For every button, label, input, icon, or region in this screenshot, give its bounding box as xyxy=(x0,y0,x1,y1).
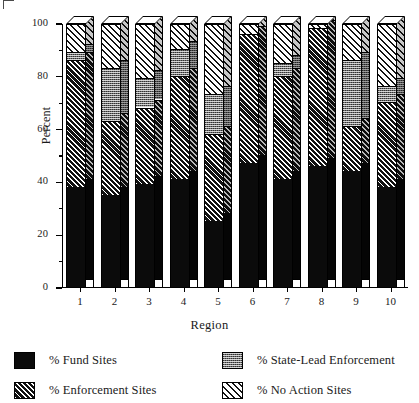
legend-label-enforcement-sites: % Enforcement Sites xyxy=(49,383,156,398)
x-tick-label: 5 xyxy=(206,295,230,307)
bar-segment-fund-sites xyxy=(136,184,154,287)
legend-label-no-action-sites: % No Action Sites xyxy=(257,383,351,398)
bar-segment-fund-sites xyxy=(274,179,292,287)
bar-front-face xyxy=(66,24,86,288)
bar-segment-enforcement-sites xyxy=(309,28,327,165)
legend-swatch-fund-icon xyxy=(14,352,35,369)
bar-group xyxy=(308,24,336,288)
legend-item-no-action-sites: % No Action Sites xyxy=(222,382,351,399)
y-tick-major xyxy=(56,23,62,24)
bar-front-face xyxy=(377,24,397,288)
bar-side-segment-state-lead-enforcement xyxy=(293,55,300,68)
bar-segment-enforcement-sites xyxy=(136,108,154,185)
y-tick-minor xyxy=(59,261,63,262)
bar-segment-state-lead-enforcement xyxy=(67,52,85,60)
bar-side-segment-enforcement-sites xyxy=(86,52,93,179)
bar-segment-enforcement-sites xyxy=(102,121,120,195)
bar-side-face xyxy=(190,16,198,280)
bar-segment-enforcement-sites xyxy=(378,102,396,186)
bar-segment-state-lead-enforcement xyxy=(136,78,154,107)
bar-side-segment-no-action-sites xyxy=(224,16,231,86)
bar-front-face xyxy=(239,24,259,288)
x-tick-label: 8 xyxy=(310,295,334,307)
bar-segment-no-action-sites xyxy=(136,24,154,78)
bar-segment-no-action-sites xyxy=(102,24,120,68)
page-corner-mark xyxy=(3,0,14,9)
bar-side-segment-no-action-sites xyxy=(397,16,404,78)
bar-side-face xyxy=(86,16,94,280)
x-axis-title: Region xyxy=(0,318,419,333)
bar-side-face xyxy=(121,16,129,280)
bar-base-wedge xyxy=(224,280,232,288)
bar-base-wedge xyxy=(259,280,267,288)
bar-side-segment-enforcement-sites xyxy=(259,26,266,155)
bar-side-face xyxy=(224,16,232,280)
bar-group xyxy=(66,24,94,288)
bar-side-segment-enforcement-sites xyxy=(155,100,162,177)
bar-side-face xyxy=(362,16,370,280)
bar-side-face xyxy=(155,16,163,280)
bar-segment-no-action-sites xyxy=(378,24,396,86)
bar-side-segment-enforcement-sites xyxy=(397,94,404,178)
x-tick-label: 3 xyxy=(137,295,161,307)
bar-segment-no-action-sites xyxy=(171,24,189,49)
bar-segment-fund-sites xyxy=(205,221,223,287)
bar-side-segment-fund-sites xyxy=(259,155,266,279)
bar-side-segment-state-lead-enforcement xyxy=(86,44,93,52)
legend-swatch-no-action-icon xyxy=(222,382,243,399)
bar-base-wedge xyxy=(362,280,370,288)
plot-area xyxy=(63,24,408,288)
x-tick-label: 6 xyxy=(241,295,265,307)
bar-base-wedge xyxy=(190,280,198,288)
bar-front-face xyxy=(101,24,121,288)
bar-base-wedge xyxy=(86,280,94,288)
y-tick-minor xyxy=(59,155,63,156)
y-tick-major xyxy=(56,182,62,183)
bar-segment-no-action-sites xyxy=(205,24,223,94)
bar-side-segment-fund-sites xyxy=(155,176,162,279)
bar-side-segment-enforcement-sites xyxy=(121,113,128,187)
bar-side-segment-no-action-sites xyxy=(155,16,162,70)
legend-label-fund-sites: % Fund Sites xyxy=(49,353,117,368)
x-tick-label: 2 xyxy=(103,295,127,307)
bar-group xyxy=(101,24,129,288)
x-tick-label: 9 xyxy=(344,295,368,307)
x-tick-label: 1 xyxy=(68,295,92,307)
y-tick-label: 20 xyxy=(18,229,48,240)
y-tick-label: 60 xyxy=(18,124,48,135)
bar-side-segment-state-lead-enforcement xyxy=(224,86,231,126)
bar-side-face xyxy=(328,16,336,280)
x-tick-label: 7 xyxy=(275,295,299,307)
legend-item-fund-sites: % Fund Sites xyxy=(14,352,117,369)
x-tick-label: 4 xyxy=(172,295,196,307)
bar-side-segment-state-lead-enforcement xyxy=(397,78,404,94)
bar-side-segment-fund-sites xyxy=(293,171,300,279)
bar-segment-enforcement-sites xyxy=(171,76,189,179)
bar-side-segment-fund-sites xyxy=(86,179,93,279)
chart-legend: % Fund Sites % State-Lead Enforcement % … xyxy=(0,352,419,403)
bar-group xyxy=(377,24,405,288)
y-tick-label: 100 xyxy=(18,18,48,29)
bar-side-segment-enforcement-sites xyxy=(293,68,300,171)
bar-front-face xyxy=(170,24,190,288)
bar-segment-enforcement-sites xyxy=(67,60,85,187)
y-tick-minor xyxy=(59,103,63,104)
bar-segment-state-lead-enforcement xyxy=(378,86,396,102)
y-tick-label: 40 xyxy=(18,176,48,187)
bar-side-segment-state-lead-enforcement xyxy=(155,70,162,99)
bar-side-segment-enforcement-sites xyxy=(190,68,197,171)
bar-group xyxy=(342,24,370,288)
bar-segment-state-lead-enforcement xyxy=(171,49,189,75)
bar-side-segment-fund-sites xyxy=(224,213,231,279)
bar-group xyxy=(204,24,232,288)
bar-group xyxy=(135,24,163,288)
bar-segment-fund-sites xyxy=(309,166,327,287)
bar-side-face xyxy=(293,16,301,280)
bar-side-segment-enforcement-sites xyxy=(362,118,369,163)
bar-front-face xyxy=(204,24,224,288)
bar-front-face xyxy=(273,24,293,288)
bar-side-face xyxy=(259,16,267,280)
legend-item-enforcement-sites: % Enforcement Sites xyxy=(14,382,156,399)
bar-base-wedge xyxy=(293,280,301,288)
y-tick-minor xyxy=(59,50,63,51)
